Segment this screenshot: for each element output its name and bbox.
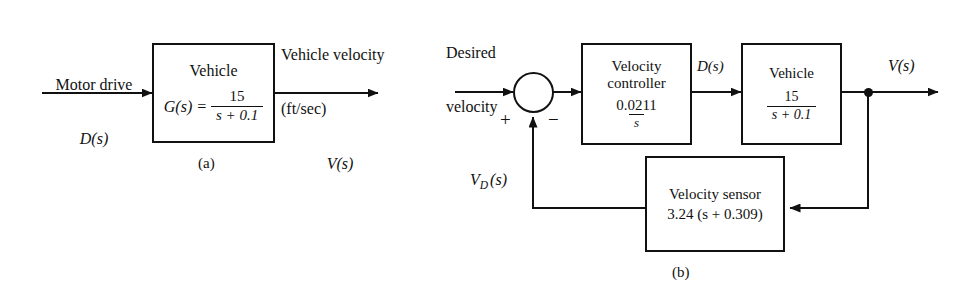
label-vehicle-velocity-line1: Vehicle velocity <box>281 46 431 64</box>
block-velocity-controller-transfer-function: 0.0211 s <box>611 98 662 130</box>
label-vehicle-velocity-units: (ft/sec) <box>281 100 431 118</box>
block-velocity-sensor-gain: 3.24 (s + 0.309) <box>667 206 763 223</box>
block-velocity-controller-numerator: 0.0211 <box>611 98 662 115</box>
caption-b: (b) <box>672 264 690 281</box>
block-vehicle-a-equation-lhs: G(s) = <box>164 98 207 116</box>
block-velocity-sensor[interactable]: Velocity sensor 3.24 (s + 0.309) <box>645 156 785 252</box>
label-vehicle-velocity: Vehicle velocity (ft/sec) V(s) <box>281 10 431 209</box>
caption-a: (a) <box>198 155 215 172</box>
label-desired-velocity-line1: Desired <box>446 44 551 62</box>
label-motor-drive-symbol: D(s) <box>35 130 153 148</box>
block-velocity-controller-title-line1: Velocity <box>612 58 662 75</box>
label-d-of-s: D(s) <box>697 58 724 75</box>
summing-junction-plus-sign: + <box>500 110 511 129</box>
block-diagram-figure: Motor drive D(s) Vehicle G(s) = 15 s + 0… <box>0 0 962 300</box>
block-vehicle-b-transfer-function: 15 s + 0.1 <box>767 90 816 122</box>
label-desired-velocity-symbol: VD(s) <box>446 153 551 210</box>
block-vehicle-b-denominator: s + 0.1 <box>767 106 816 123</box>
label-vd-tail: (s) <box>490 171 507 188</box>
block-vehicle-b-numerator: 15 <box>780 90 804 106</box>
label-motor-drive: Motor drive D(s) <box>35 40 153 185</box>
block-velocity-controller[interactable]: Velocity controller 0.0211 s <box>581 43 692 145</box>
block-vehicle-b[interactable]: Vehicle 15 s + 0.1 <box>741 43 842 145</box>
summing-junction-minus-sign: − <box>548 110 559 129</box>
block-velocity-sensor-title: Velocity sensor <box>669 186 761 203</box>
label-motor-drive-line1: Motor drive <box>35 76 153 94</box>
block-vehicle-b-title: Vehicle <box>769 65 814 82</box>
block-vehicle-a-transfer-function: 15 s + 0.1 <box>211 89 263 124</box>
signal-junction-dot <box>864 88 873 97</box>
label-vd-subscript: D <box>480 179 488 191</box>
block-velocity-controller-denominator: s <box>629 114 644 130</box>
block-vehicle-a[interactable]: Vehicle G(s) = 15 s + 0.1 <box>152 43 275 143</box>
summing-junction[interactable] <box>513 72 554 113</box>
block-vehicle-a-numerator: 15 <box>225 89 250 106</box>
label-desired-velocity: Desired velocity VD(s) <box>446 8 551 246</box>
block-vehicle-a-denominator: s + 0.1 <box>211 106 263 124</box>
label-v-of-s-output: V(s) <box>888 57 915 75</box>
label-vd-base: V <box>470 171 480 188</box>
label-vehicle-velocity-symbol: V(s) <box>281 155 399 173</box>
block-velocity-controller-title-line2: controller <box>607 75 665 92</box>
block-vehicle-a-title: Vehicle <box>190 62 238 80</box>
